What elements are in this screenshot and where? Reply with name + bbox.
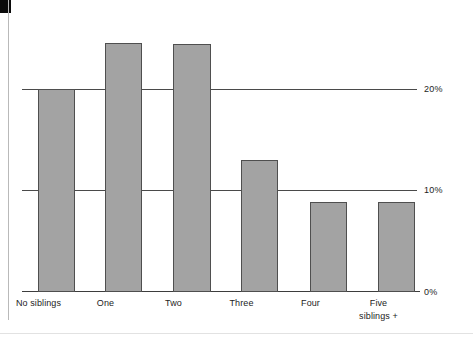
xtick-label-line1: One — [97, 298, 114, 308]
bar-one[interactable] — [105, 43, 142, 292]
bar-two[interactable] — [173, 44, 211, 292]
xtick-label-four: Four — [272, 297, 349, 310]
xtick-label-no-siblings: No siblings — [0, 297, 77, 310]
ytick-label-0: 0% — [424, 287, 437, 297]
bar-three[interactable] — [241, 160, 278, 292]
ytick-label-10: 10% — [424, 185, 443, 195]
xtick-label-line1: Three — [229, 298, 253, 308]
page-canvas: 20% 10% 0% No siblings One Two Three Fou… — [0, 0, 473, 341]
xtick-label-line1: Four — [301, 298, 320, 308]
gridline-10 — [22, 190, 417, 191]
bar-four[interactable] — [310, 202, 347, 292]
xtick-label-line1: No siblings — [16, 298, 61, 308]
xtick-label-three: Three — [203, 297, 280, 310]
bar-chart: 20% 10% 0% No siblings One Two Three Fou… — [0, 0, 473, 341]
xtick-label-line1: Five — [370, 298, 387, 308]
axis-baseline-0 — [22, 291, 420, 292]
bar-no-siblings[interactable] — [38, 89, 75, 292]
xtick-label-two: Two — [135, 297, 212, 310]
xtick-label-five-siblings-plus: Five siblings + — [340, 297, 417, 323]
xtick-label-line2: siblings + — [340, 310, 417, 323]
ytick-label-20: 20% — [424, 84, 443, 94]
gridline-20 — [22, 89, 417, 90]
bar-five-siblings-plus[interactable] — [378, 202, 415, 292]
plot-area — [22, 12, 417, 292]
xtick-label-one: One — [67, 297, 144, 310]
xtick-label-line1: Two — [165, 298, 182, 308]
